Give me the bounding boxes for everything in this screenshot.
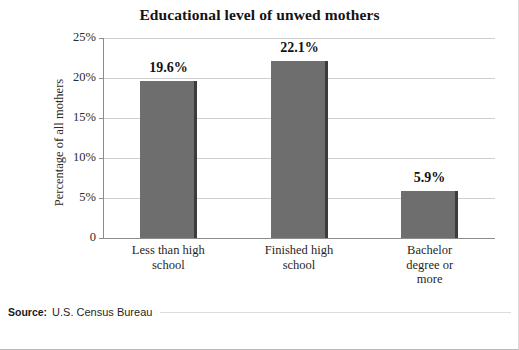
y-tick-label: 20% bbox=[48, 70, 96, 85]
x-category-label: Less than highschool bbox=[103, 243, 234, 272]
source-label: Source: bbox=[8, 306, 47, 318]
bar-value-label: 19.6% bbox=[115, 60, 222, 76]
source-rule bbox=[160, 312, 511, 313]
bar-value-label: 5.9% bbox=[376, 170, 483, 186]
y-tick-label: 10% bbox=[48, 150, 96, 165]
chart-figure: Educational level of unwed mothers Perce… bbox=[0, 0, 519, 350]
chart-title: Educational level of unwed mothers bbox=[0, 6, 519, 24]
gridline bbox=[103, 38, 495, 39]
x-category-label: Finished highschool bbox=[234, 243, 365, 272]
y-axis-line bbox=[103, 38, 104, 239]
bar bbox=[140, 81, 197, 238]
y-tick-label: 15% bbox=[48, 110, 96, 125]
y-tick-label: 5% bbox=[48, 190, 96, 205]
x-axis-line bbox=[103, 238, 495, 239]
y-tick-label: 0 bbox=[48, 230, 96, 245]
y-tick-label: 25% bbox=[48, 30, 96, 45]
bar bbox=[271, 61, 328, 238]
source-note: Source: U.S. Census Bureau bbox=[8, 306, 511, 318]
source-text: U.S. Census Bureau bbox=[52, 306, 152, 318]
x-category-label: Bachelordegree ormore bbox=[364, 243, 495, 287]
bar bbox=[401, 191, 458, 238]
bar-value-label: 22.1% bbox=[246, 40, 353, 56]
